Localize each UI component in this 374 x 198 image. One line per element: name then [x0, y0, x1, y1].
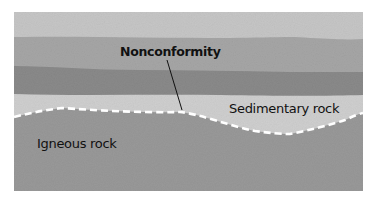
igneous-rock-label: Igneous rock	[37, 136, 117, 151]
nonconformity-label: Nonconformity	[120, 44, 221, 59]
nonconformity-diagram	[0, 0, 374, 198]
sedimentary-rock-label: Sedimentary rock	[229, 101, 339, 116]
